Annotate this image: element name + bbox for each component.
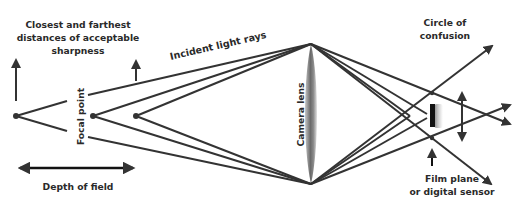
crossing-dot-icon bbox=[430, 91, 434, 95]
crossing-dot-icon bbox=[430, 136, 434, 140]
focal-point-label: Focal point bbox=[74, 82, 87, 152]
coc-label-line: confusion bbox=[405, 29, 485, 42]
sensor-bar-icon bbox=[430, 104, 443, 128]
sharpness-label-line: Closest and farthest bbox=[8, 18, 148, 31]
depth-of-field-label: Depth of field bbox=[18, 180, 138, 193]
sharpness-label: Closest and farthest distances of accept… bbox=[8, 18, 148, 57]
focal-point-dot-icon bbox=[90, 113, 96, 119]
film-plane-label: Film plane or digital sensor bbox=[392, 172, 512, 198]
refracted-rays bbox=[311, 44, 510, 184]
sharpness-label-line: sharpness bbox=[8, 44, 148, 57]
far-point-dot-icon bbox=[13, 113, 19, 119]
camera-lens-label: Camera lens bbox=[294, 75, 307, 155]
sharpness-label-line: distances of acceptable bbox=[8, 31, 148, 44]
film-label-line: Film plane bbox=[392, 172, 512, 185]
biconvex-lens-icon bbox=[305, 44, 317, 184]
coc-label-line: Circle of bbox=[405, 16, 485, 29]
camera-lens bbox=[305, 44, 317, 184]
near-point-dot-icon bbox=[133, 113, 139, 119]
film-label-line: or digital sensor bbox=[392, 185, 512, 198]
depth-of-field-diagram: Closest and farthest distances of accept… bbox=[0, 0, 525, 208]
circle-of-confusion-label: Circle of confusion bbox=[405, 16, 485, 42]
incident-light-rays bbox=[16, 44, 311, 184]
